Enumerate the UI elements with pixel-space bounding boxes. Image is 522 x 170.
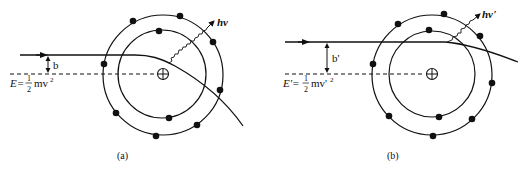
photon-arrow-icon	[473, 14, 480, 20]
energy-label: E'= 1 2 mv' 2	[282, 74, 334, 94]
panel-a-caption: (a)	[117, 150, 128, 162]
impact-parameter-label: b'	[332, 52, 340, 64]
svg-text:E=: E=	[9, 77, 24, 89]
svg-text:2: 2	[27, 85, 31, 94]
svg-text:E'=: E'=	[282, 77, 300, 89]
nucleus-icon	[158, 69, 169, 80]
svg-text:mv': mv'	[311, 77, 327, 89]
svg-text:1: 1	[304, 74, 308, 83]
svg-text:mv: mv	[34, 77, 49, 89]
panel-a: b hv E= 1 2 mv 2 (a)	[9, 13, 243, 162]
impact-parameter-arrow-icon	[46, 56, 51, 73]
photon-label: hv	[217, 16, 228, 28]
energy-label: E= 1 2 mv 2	[9, 74, 54, 94]
svg-text:2: 2	[304, 85, 308, 94]
photon-wave	[169, 28, 207, 63]
electron-trajectory	[285, 42, 518, 62]
svg-text:1: 1	[27, 74, 31, 83]
panel-b: b' hv' E'= 1 2 mv' 2 (b)	[282, 8, 518, 162]
nucleus-icon	[427, 69, 438, 80]
bremsstrahlung-diagram: b hv E= 1 2 mv 2 (a)	[0, 0, 522, 170]
impact-parameter-arrow-icon	[325, 43, 330, 73]
panel-b-caption: (b)	[387, 150, 399, 162]
svg-text:2: 2	[330, 76, 334, 84]
photon-label: hv'	[482, 8, 496, 20]
impact-parameter-label: b	[53, 59, 59, 71]
svg-text:2: 2	[50, 76, 54, 84]
photon-wave	[447, 20, 473, 42]
photon-arrow-icon	[207, 21, 214, 28]
